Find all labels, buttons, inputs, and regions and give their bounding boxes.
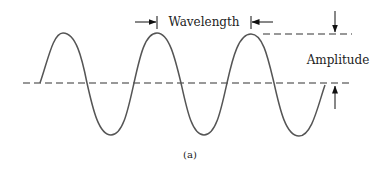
amplitude-label: Amplitude	[306, 53, 370, 67]
figure-caption: (a)	[183, 149, 197, 160]
wave-diagram: Wavelength Amplitude (a)	[0, 0, 378, 171]
sine-wave	[40, 33, 325, 136]
wavelength-label: Wavelength	[168, 15, 239, 29]
